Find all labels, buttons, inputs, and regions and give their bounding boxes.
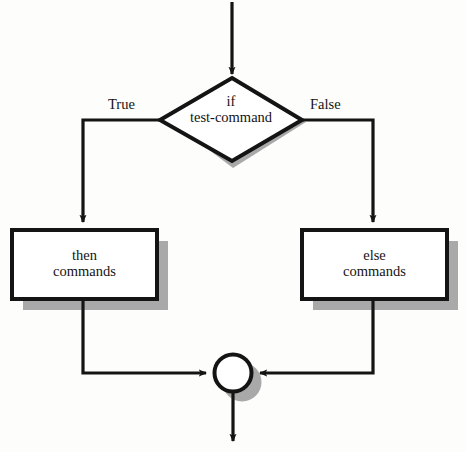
true-edge-label: True [108, 96, 135, 113]
false-edge-label: False [310, 96, 341, 113]
then-box[interactable] [12, 230, 157, 299]
true-branch-connector [83, 120, 160, 222]
else-merge-connector [260, 299, 373, 373]
merge-circle[interactable] [215, 355, 252, 392]
false-branch-connector [302, 120, 373, 222]
decision-diamond[interactable] [160, 78, 302, 161]
then-merge-connector [83, 299, 206, 373]
flowchart-canvas: if test-command then commands else comma… [0, 0, 466, 452]
flowchart-svg [0, 0, 466, 452]
else-box[interactable] [302, 230, 447, 299]
